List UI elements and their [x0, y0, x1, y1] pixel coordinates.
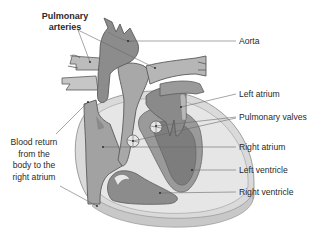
heart-diagram: Pulmonary arteries Aorta Left atrium Pul… [0, 0, 322, 240]
label-pulmonary-valves: Pulmonary valves [239, 112, 307, 122]
label-left-atrium: Left atrium [239, 89, 280, 99]
label-pulmonary-arteries-line1: Pulmonary [30, 11, 100, 22]
label-blood-return-line4: right atrium [2, 172, 66, 184]
label-right-atrium: Right atrium [239, 142, 285, 152]
label-blood-return-line3: body to the [2, 160, 66, 172]
label-pulmonary-arteries: Pulmonary arteries [30, 11, 100, 33]
label-aorta: Aorta [239, 36, 260, 46]
label-left-ventricle: Left ventricle [239, 165, 288, 175]
label-pulmonary-arteries-line2: arteries [30, 22, 100, 33]
label-blood-return-line1: Blood return [2, 137, 66, 149]
label-blood-return-line2: from the [2, 149, 66, 161]
label-blood-return: Blood return from the body to the right … [2, 137, 66, 183]
label-right-ventricle: Right ventricle [239, 187, 293, 197]
